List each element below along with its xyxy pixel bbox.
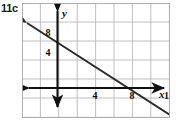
y-tick-label-8: 8 [46, 27, 51, 38]
figure-container: 11c [0, 0, 176, 123]
y-axis-label: y [60, 7, 67, 19]
y-tick-label-4: 4 [46, 47, 51, 58]
x-tick-label-12: 12 [164, 90, 170, 101]
x-tick-label-8: 8 [130, 90, 135, 101]
x-tick-label-4: 4 [93, 90, 98, 101]
figure-label: 11c [1, 2, 18, 14]
graph-svg: y x 8 4 4 8 12 [22, 3, 170, 118]
coordinate-plane: y x 8 4 4 8 12 [22, 3, 170, 118]
